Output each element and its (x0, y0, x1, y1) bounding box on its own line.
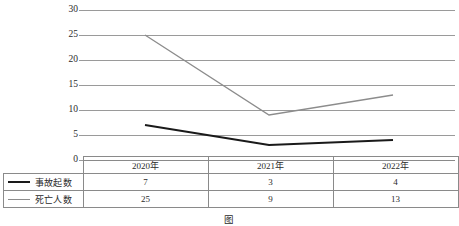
data-table: 2020年 2021年 2022年 事故起数 7 3 4 (3, 156, 459, 208)
cell-accident-2021: 3 (208, 174, 333, 191)
table-row: 事故起数 7 3 4 (4, 174, 459, 191)
line-accident-count (145, 125, 393, 145)
ytick-label-30: 30 (69, 5, 79, 15)
ytick-label-20: 20 (69, 55, 79, 65)
ytick-label-25: 25 (69, 30, 79, 40)
table-header-2020: 2020年 (83, 157, 208, 174)
ytick-label-5: 5 (73, 130, 78, 140)
line-death-toll (145, 35, 393, 115)
table-header-2021: 2021年 (208, 157, 333, 174)
table-row: 死亡人数 25 9 13 (4, 191, 459, 208)
series-canvas (83, 10, 455, 165)
legend-item-accident-count: 事故起数 (4, 174, 84, 191)
cell-death-2020: 25 (83, 191, 208, 208)
legend-label-accident-count: 事故起数 (35, 176, 72, 189)
figure-caption: 图 (0, 212, 458, 226)
table-header-row: 2020年 2021年 2022年 (4, 157, 459, 174)
legend-item-death-toll: 死亡人数 (4, 191, 84, 208)
table-corner-cell (4, 157, 84, 174)
cell-death-2022: 13 (333, 191, 458, 208)
legend-label-death-toll: 死亡人数 (35, 193, 72, 206)
cell-death-2021: 9 (208, 191, 333, 208)
ytick-label-15: 15 (69, 80, 79, 90)
cell-accident-2020: 7 (83, 174, 208, 191)
legend-swatch-accident-count-icon (8, 181, 30, 183)
legend-swatch-death-toll-icon (8, 199, 30, 200)
ytick-label-10: 10 (69, 105, 79, 115)
table-header-2022: 2022年 (333, 157, 458, 174)
plot-area: 30 25 20 15 10 5 0 (83, 10, 455, 165)
cell-accident-2022: 4 (333, 174, 458, 191)
